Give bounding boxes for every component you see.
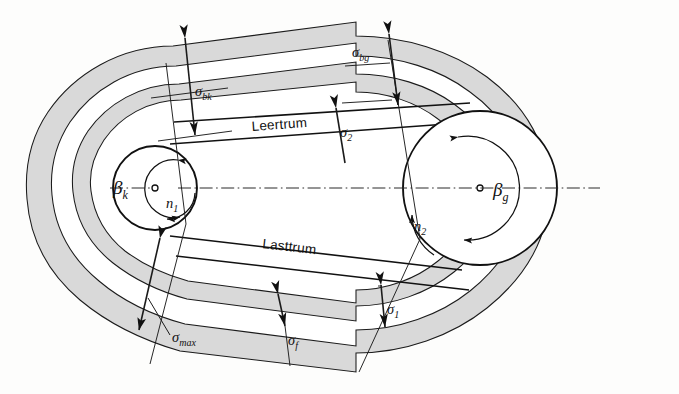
sigma-bk-subscript: bk bbox=[202, 91, 212, 102]
beta-k-subscript: k bbox=[122, 188, 128, 202]
beta-g-subscript: g bbox=[502, 190, 508, 204]
sigma-max-subscript: max bbox=[179, 337, 196, 348]
n2-subscript: 2 bbox=[421, 226, 426, 237]
belt-drive-stress-diagram: σbk σbg σ2 σ1 bbox=[0, 0, 679, 394]
beta-k-symbol: β bbox=[112, 177, 123, 198]
sigma-2-subscript: 2 bbox=[347, 132, 352, 143]
small-pulley-hub bbox=[152, 185, 158, 191]
n2-symbol: n bbox=[414, 218, 421, 234]
sigma-bg-subscript: bg bbox=[359, 52, 369, 63]
n1-subscript: 1 bbox=[173, 203, 178, 214]
n1-symbol: n bbox=[166, 195, 173, 211]
beta-g-symbol: β bbox=[492, 179, 503, 200]
sigma-1-subscript: 1 bbox=[394, 309, 399, 320]
figure-root: σbk σbg σ2 σ1 bbox=[0, 0, 679, 394]
